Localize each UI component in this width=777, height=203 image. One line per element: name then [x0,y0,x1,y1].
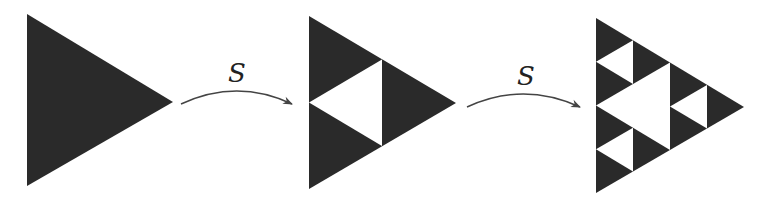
arrow-s-1: S [181,58,292,104]
triangle-stage-2 [596,18,744,193]
triangle-stage-1 [309,16,456,189]
arrow-s-2: S [467,61,580,107]
sierpinski-diagram: S S [0,0,777,203]
map-label-s-2: S [517,61,535,91]
triangle-stage-0 [27,14,173,186]
map-label-s-1: S [228,58,246,88]
